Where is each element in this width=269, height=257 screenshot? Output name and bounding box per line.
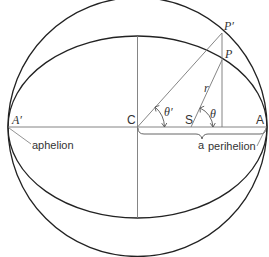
label-a: A: [256, 113, 264, 127]
label-theta: θ: [210, 107, 216, 121]
aphelion-leader: [9, 128, 31, 144]
label-s: S: [185, 113, 193, 127]
label-p: P: [224, 47, 233, 61]
label-semi-major-a: a: [198, 139, 205, 151]
label-theta-prime: θ′: [164, 105, 173, 119]
orbit-diagram: A′ C S A P′ P r θ′ θ a aphelion periheli…: [0, 0, 269, 257]
label-c: C: [127, 113, 136, 127]
label-a-prime: A′: [11, 113, 22, 127]
label-r: r: [204, 81, 209, 95]
label-aphelion: aphelion: [32, 139, 74, 151]
label-perihelion: perihelion: [208, 140, 256, 152]
label-p-prime: P′: [223, 19, 234, 33]
semi-major-brace: [138, 128, 266, 139]
perihelion-leader: [257, 130, 265, 146]
